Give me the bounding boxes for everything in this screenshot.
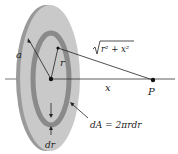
label-a: a — [16, 49, 22, 60]
disk-center-dot — [49, 77, 53, 81]
label-da: dA = 2πrdr — [90, 120, 142, 130]
label-sqrt-radicand: r² + x² — [101, 44, 130, 54]
disk-field-diagram: a r r² + x² x P dA = 2πrdr dr — [0, 0, 178, 154]
point-p-dot — [151, 78, 155, 82]
label-dr: dr — [45, 140, 56, 150]
label-x: x — [105, 82, 111, 93]
label-distance: r² + x² — [93, 41, 134, 54]
label-p: P — [147, 86, 155, 97]
